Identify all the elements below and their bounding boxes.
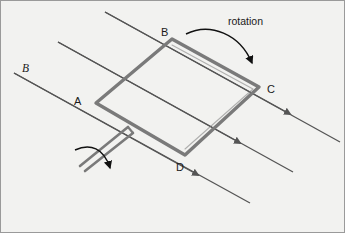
coil-vertex-label-c: C — [267, 83, 275, 95]
figure-container: B B C D A rotation — [0, 0, 345, 233]
coil-vertex-label-d: D — [176, 161, 184, 173]
magnetic-field-label: B — [22, 62, 29, 74]
coil-vertex-label-a: A — [74, 95, 82, 107]
diagram-canvas: B B C D A rotation — [0, 0, 345, 233]
coil-vertex-label-b: B — [161, 26, 168, 38]
rotation-label: rotation — [228, 15, 263, 27]
